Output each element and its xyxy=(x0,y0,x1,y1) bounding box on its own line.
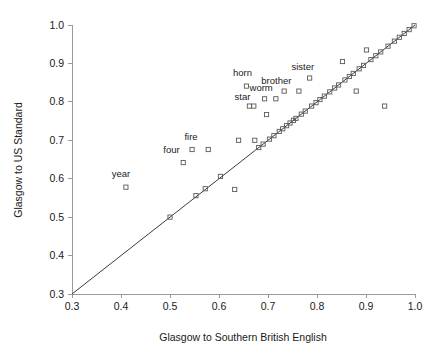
plot-canvas: 0.30.40.50.60.70.80.91.0 0.30.40.50.60.7… xyxy=(0,0,440,355)
point-label-horn: horn xyxy=(233,67,252,78)
y-tick-label: 0.5 xyxy=(49,211,64,223)
x-tick-label: 0.9 xyxy=(359,300,374,312)
x-tick-label: 0.3 xyxy=(65,300,80,312)
y-tick-label: 0.4 xyxy=(49,249,64,261)
y-tick-label: 0.8 xyxy=(49,95,64,107)
point-label-brother: brother xyxy=(261,75,291,86)
y-tick-label: 0.7 xyxy=(49,134,64,146)
x-tick-label: 0.4 xyxy=(114,300,129,312)
x-tick-label: 0.7 xyxy=(261,300,276,312)
point-label-year: year xyxy=(112,168,130,179)
y-tick-label: 0.9 xyxy=(49,57,64,69)
x-axis-title: Glasgow to Southern British English xyxy=(159,331,327,343)
y-tick-label: 0.3 xyxy=(49,288,64,300)
point-label-four: four xyxy=(163,144,179,155)
x-tick-label: 0.8 xyxy=(310,300,325,312)
point-label-fire: fire xyxy=(184,131,197,142)
x-tick-label: 1.0 xyxy=(408,300,423,312)
point-label-star: star xyxy=(235,91,251,102)
scatter-plot-figure: 0.30.40.50.60.70.80.91.0 0.30.40.50.60.7… xyxy=(0,0,440,355)
y-tick-label: 1.0 xyxy=(49,19,64,31)
point-label-sister: sister xyxy=(291,61,314,72)
x-tick-label: 0.5 xyxy=(163,300,178,312)
x-tick-label: 0.6 xyxy=(212,300,227,312)
y-axis-title: Glasgow to US Standard xyxy=(12,102,24,218)
y-tick-label: 0.6 xyxy=(49,172,64,184)
